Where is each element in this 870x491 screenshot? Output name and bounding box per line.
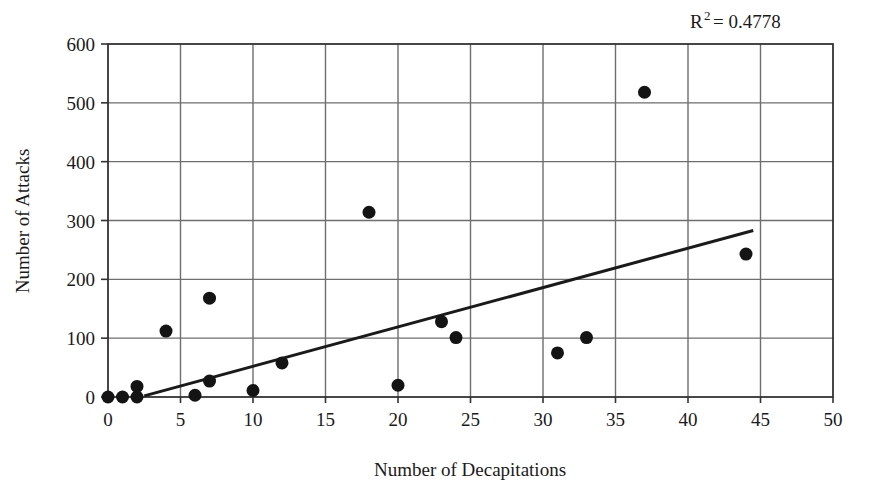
- x-tick-label: 45: [751, 409, 770, 430]
- data-point: [392, 379, 405, 392]
- x-tick-label: 25: [461, 409, 480, 430]
- data-point: [580, 331, 593, 344]
- data-point: [102, 391, 115, 404]
- data-point: [247, 384, 260, 397]
- x-tick-label: 35: [606, 409, 625, 430]
- y-tick-label: 600: [67, 34, 96, 55]
- x-tick-label: 10: [244, 409, 263, 430]
- data-point: [203, 292, 216, 305]
- y-tick-label: 300: [67, 211, 96, 232]
- data-point: [638, 86, 651, 99]
- data-point: [189, 389, 202, 402]
- r-squared-superscript: 2: [704, 8, 711, 23]
- x-tick-label: 15: [316, 409, 335, 430]
- data-point: [116, 391, 129, 404]
- data-point: [131, 380, 144, 393]
- data-point: [551, 346, 564, 359]
- x-tick-label: 40: [679, 409, 698, 430]
- y-axis-title: Number of Attacks: [12, 149, 33, 294]
- data-point: [740, 248, 753, 261]
- x-tick-label: 50: [824, 409, 843, 430]
- y-tick-label: 400: [67, 152, 96, 173]
- data-point: [203, 375, 216, 388]
- r-squared-base: R: [690, 11, 703, 32]
- x-tick-label: 20: [389, 409, 408, 430]
- x-tick-label: 0: [103, 409, 113, 430]
- data-point: [435, 315, 448, 328]
- chart-canvas: 0100200300400500600 05101520253035404550…: [0, 0, 870, 491]
- data-point: [450, 331, 463, 344]
- data-point: [363, 206, 376, 219]
- x-tick-label: 30: [534, 409, 553, 430]
- r-squared-value: = 0.4778: [713, 11, 781, 32]
- scatter-chart-figure: 0100200300400500600 05101520253035404550…: [0, 0, 870, 491]
- x-tick-label: 5: [176, 409, 186, 430]
- chart-background: [0, 0, 870, 491]
- data-point: [276, 356, 289, 369]
- y-tick-label: 500: [67, 93, 96, 114]
- y-tick-label: 0: [86, 387, 96, 408]
- y-tick-label: 200: [67, 269, 96, 290]
- data-point: [160, 325, 173, 338]
- x-axis-title: Number of Decapitations: [374, 459, 566, 480]
- y-tick-label: 100: [67, 328, 96, 349]
